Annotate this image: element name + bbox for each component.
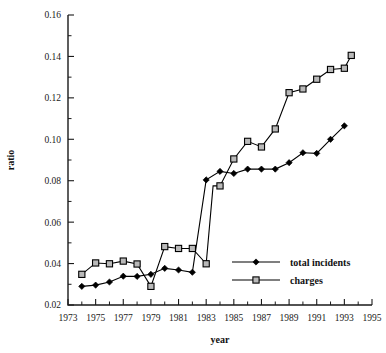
data-point-charges — [231, 156, 237, 162]
data-point-charges — [286, 90, 292, 96]
data-point-charges — [300, 86, 306, 92]
data-point-total-incidents — [272, 166, 278, 172]
data-point-charges — [245, 138, 251, 144]
data-point-charges — [314, 76, 320, 82]
x-tick-label: 1993 — [335, 313, 354, 323]
x-tick-label: 1991 — [307, 313, 326, 323]
data-point-charges — [272, 126, 278, 132]
data-point-total-incidents — [120, 273, 126, 279]
y-tick-label: 0.06 — [44, 218, 61, 228]
x-tick-label: 1979 — [141, 313, 160, 323]
data-point-charges — [93, 260, 99, 266]
y-tick-label: 0.10 — [44, 135, 61, 145]
data-point-charges — [120, 258, 126, 264]
x-tick-label: 1995 — [363, 313, 382, 323]
data-point-total-incidents — [189, 269, 195, 275]
x-tick-label: 1981 — [169, 313, 188, 323]
y-tick-label: 0.04 — [44, 259, 61, 269]
data-point-charges — [327, 66, 333, 72]
legend-label-charges: charges — [290, 275, 323, 286]
data-point-total-incidents — [175, 267, 181, 273]
data-point-total-incidents — [217, 168, 223, 174]
legend-marker-charges — [253, 277, 259, 283]
line-chart-canvas: 0.020.040.060.080.100.120.140.1619731975… — [0, 0, 386, 353]
x-tick-label: 1973 — [59, 313, 78, 323]
data-point-charges — [175, 245, 181, 251]
data-point-charges — [106, 261, 112, 267]
data-point-total-incidents — [79, 283, 85, 289]
data-point-charges — [162, 243, 168, 249]
data-point-charges — [217, 183, 223, 189]
x-tick-label: 1987 — [252, 313, 271, 323]
x-tick-label: 1989 — [280, 313, 299, 323]
y-tick-label: 0.14 — [44, 52, 61, 62]
data-point-total-incidents — [258, 166, 264, 172]
y-tick-label: 0.02 — [44, 300, 61, 310]
data-point-total-incidents — [231, 170, 237, 176]
y-tick-label: 0.08 — [44, 176, 61, 186]
data-point-charges — [148, 283, 154, 289]
data-point-total-incidents — [134, 273, 140, 279]
x-tick-label: 1977 — [114, 313, 133, 323]
data-point-total-incidents — [245, 166, 251, 172]
x-tick-label: 1983 — [197, 313, 216, 323]
legend-marker-total-incidents — [253, 259, 259, 265]
x-tick-label: 1985 — [224, 313, 243, 323]
data-point-charges — [203, 261, 209, 267]
data-point-charges — [348, 52, 354, 58]
series-line-charges — [82, 55, 351, 286]
data-point-total-incidents — [148, 271, 154, 277]
data-point-total-incidents — [203, 177, 209, 183]
data-point-charges — [258, 144, 264, 150]
data-point-total-incidents — [162, 265, 168, 271]
y-tick-label: 0.12 — [44, 93, 61, 103]
y-tick-label: 0.16 — [44, 10, 61, 20]
data-point-charges — [189, 245, 195, 251]
data-point-total-incidents — [93, 282, 99, 288]
data-point-charges — [79, 271, 85, 277]
y-axis-title: ratio — [5, 150, 16, 171]
x-axis-title: year — [211, 334, 230, 345]
chart-figure: 0.020.040.060.080.100.120.140.1619731975… — [0, 0, 386, 353]
legend-label-total-incidents: total incidents — [290, 257, 350, 268]
data-point-charges — [134, 261, 140, 267]
data-point-charges — [341, 65, 347, 71]
data-point-total-incidents — [106, 279, 112, 285]
x-tick-label: 1975 — [86, 313, 105, 323]
